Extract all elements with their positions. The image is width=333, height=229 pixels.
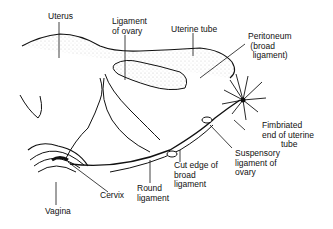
- label-cervix: Cervix: [100, 191, 124, 201]
- label-uterus: Uterus: [48, 12, 73, 22]
- label-suspensory-ligament: Suspensory ligament of ovary: [235, 149, 280, 178]
- label-vagina: Vagina: [45, 207, 71, 217]
- fimbriae: [222, 74, 266, 120]
- label-round-ligament: Round ligament: [137, 184, 169, 203]
- label-uterine-tube: Uterine tube: [171, 25, 217, 35]
- label-cut-edge: Cut edge of broad ligament: [174, 161, 218, 190]
- label-ligament-of-ovary: Ligament of ovary: [112, 17, 147, 36]
- label-peritoneum: Peritoneum (broad ligament): [248, 32, 291, 61]
- label-fimbriated-end: Fimbriated end of uterine tube: [262, 121, 314, 150]
- vagina-drawing: [28, 144, 88, 172]
